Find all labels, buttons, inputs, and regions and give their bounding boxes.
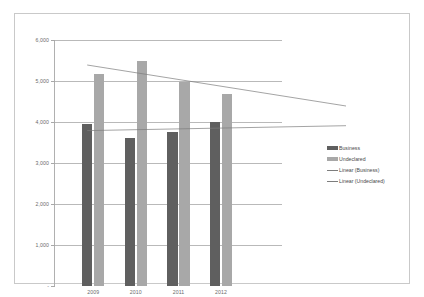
- chart-legend: Business Undeclared Linear (Business) Li…: [327, 142, 419, 186]
- legend-line-undeclared-icon: [327, 179, 338, 183]
- bar-business-2012[interactable]: [210, 122, 221, 286]
- gridline: [54, 81, 282, 82]
- y-axis-tick-label: 2,000: [36, 201, 49, 207]
- bar-business-2011[interactable]: [167, 132, 178, 286]
- legend-label-business: Business: [339, 145, 360, 151]
- legend-item-business[interactable]: Business: [327, 142, 419, 153]
- legend-label-linear-undeclared: Linear (Undeclared): [339, 178, 385, 184]
- y-axis-tick: [51, 204, 55, 205]
- y-axis-tick-label: 3,000: [36, 160, 49, 166]
- legend-item-undeclared[interactable]: Undeclared: [327, 153, 419, 164]
- chart-container: -1,0002,0003,0004,0005,0006,000 20092010…: [0, 0, 424, 297]
- legend-swatch-business-icon: [327, 146, 338, 150]
- plot-area: -1,0002,0003,0004,0005,0006,000 20092010…: [54, 40, 282, 286]
- bar-undeclared-2011[interactable]: [179, 82, 190, 286]
- bar-business-2009[interactable]: [82, 124, 93, 286]
- legend-line-business-icon: [327, 168, 338, 172]
- trendline-undeclared[interactable]: [87, 65, 346, 106]
- y-axis-tick-label: 1,000: [36, 242, 49, 248]
- legend-item-linear-business[interactable]: Linear (Business): [327, 164, 419, 175]
- y-axis-tick: [51, 122, 55, 123]
- legend-label-undeclared: Undeclared: [339, 156, 366, 162]
- bar-undeclared-2009[interactable]: [94, 74, 105, 286]
- y-axis-tick-label: -: [47, 283, 49, 289]
- y-axis-tick-label: 5,000: [36, 78, 49, 84]
- x-axis-label-2012: 2012: [215, 289, 227, 295]
- y-axis-tick: [51, 286, 55, 287]
- y-axis-tick-label: 6,000: [36, 37, 49, 43]
- y-axis-tick: [51, 81, 55, 82]
- bar-undeclared-2012[interactable]: [222, 94, 233, 286]
- chart-frame: -1,0002,0003,0004,0005,0006,000 20092010…: [14, 13, 410, 284]
- x-axis-label-2010: 2010: [130, 289, 142, 295]
- legend-item-linear-undeclared[interactable]: Linear (Undeclared): [327, 175, 419, 186]
- y-axis-tick: [51, 163, 55, 164]
- gridline: [54, 40, 282, 41]
- x-axis-label-2011: 2011: [173, 289, 185, 295]
- y-axis-tick: [51, 40, 55, 41]
- legend-label-linear-business: Linear (Business): [339, 167, 379, 173]
- y-axis-tick: [51, 245, 55, 246]
- bar-undeclared-2010[interactable]: [137, 61, 148, 286]
- legend-swatch-undeclared-icon: [327, 157, 338, 161]
- y-axis-tick-label: 4,000: [36, 119, 49, 125]
- bar-business-2010[interactable]: [125, 138, 136, 286]
- x-axis-label-2009: 2009: [87, 289, 99, 295]
